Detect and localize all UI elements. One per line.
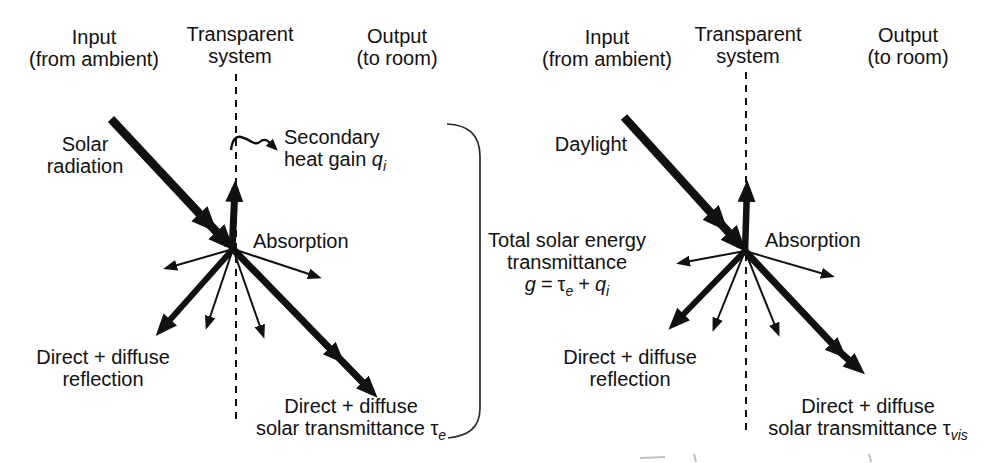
left-secondary-line1: Secondary: [284, 126, 386, 148]
right-header-input: Input (from ambient): [542, 26, 672, 70]
right-scatter-arrow-2: [714, 251, 745, 328]
left-secondary-heat-gain-squiggle-arrow: [231, 137, 275, 150]
left-absorption-label: Absorption: [253, 230, 349, 252]
right-transmittance-label: Direct + diffuse solar transmittance τvi…: [768, 395, 968, 439]
left-header-system-line1: Transparent: [186, 23, 293, 45]
left-header-output-line2: (to room): [356, 47, 437, 69]
formula-equals: =: [541, 273, 553, 295]
total-note-line1: Total solar energy: [488, 229, 646, 251]
formula-tau-sub: e: [565, 283, 573, 299]
right-header-input-line1: Input: [542, 26, 672, 48]
left-header-system-line2: system: [186, 45, 293, 67]
right-header-output: Output (to room): [867, 24, 948, 68]
left-reflection-label: Direct + diffuse reflection: [36, 346, 170, 390]
left-source-label: Solar radiation: [47, 133, 124, 177]
left-reflection-line1: Direct + diffuse: [36, 346, 170, 368]
left-transmittance-line2-text: solar transmittance: [256, 417, 431, 439]
left-header-system: Transparent system: [186, 23, 293, 67]
left-reflection-line2: reflection: [36, 368, 170, 390]
right-transmittance-line1: Direct + diffuse: [768, 395, 968, 417]
right-header-input-line2: (from ambient): [542, 48, 672, 70]
left-reflection-arrow: [161, 249, 233, 330]
left-secondary-heat-gain-label: Secondary heat gain qi: [284, 126, 386, 170]
left-transmittance-line2: solar transmittance τe: [256, 417, 446, 439]
right-reflection-line1: Direct + diffuse: [563, 346, 697, 368]
formula-plus: +: [578, 273, 590, 295]
left-header-output: Output (to room): [356, 25, 437, 69]
left-transmittance-line1: Direct + diffuse: [256, 395, 446, 417]
right-absorption-label: Absorption: [765, 229, 861, 251]
left-header-input-line1: Input: [29, 26, 159, 48]
total-note-formula: g=τe+qi: [488, 273, 646, 295]
right-transmittance-line2-text: solar transmittance: [768, 417, 943, 439]
right-scatter-arrow-3: [745, 251, 778, 333]
left-transmittance-symbol-sub: e: [438, 427, 446, 443]
right-source-label: Daylight: [555, 133, 627, 155]
left-header-input-line2: (from ambient): [29, 48, 159, 70]
right-transmittance-line2: solar transmittance τvis: [768, 417, 968, 439]
total-transmittance-brace: [447, 124, 480, 438]
solar-daylight-transmittance-figure: Input (from ambient) Transparent system …: [0, 0, 991, 463]
right-transmittance-symbol-sub: vis: [951, 427, 968, 443]
left-secondary-symbol: q: [372, 148, 383, 170]
right-header-system: Transparent system: [694, 23, 801, 67]
formula-q-sub: i: [606, 283, 609, 299]
left-solar-radiation-arrow: [111, 119, 228, 244]
formula-q: q: [595, 273, 606, 295]
left-secondary-line2-text: heat gain: [284, 148, 372, 170]
left-header-output-line1: Output: [356, 25, 437, 47]
total-note-line2: transmittance: [488, 251, 646, 273]
left-absorption-up-arrow: [232, 188, 235, 252]
right-daylight-arrow: [624, 117, 740, 245]
right-header-output-line1: Output: [867, 24, 948, 46]
left-header-input: Input (from ambient): [29, 26, 159, 70]
left-source-line2: radiation: [47, 155, 124, 177]
left-transmittance-label: Direct + diffuse solar transmittance τe: [256, 395, 446, 439]
right-absorption-up-arrow: [745, 188, 747, 253]
left-transmittance-arrow: [233, 249, 372, 392]
right-reflection-line2: reflection: [563, 368, 697, 390]
left-source-line1: Solar: [47, 133, 124, 155]
total-transmittance-note: Total solar energy transmittance g=τe+qi: [488, 229, 646, 295]
right-reflection-label: Direct + diffuse reflection: [563, 346, 697, 390]
right-header-system-line2: system: [694, 45, 801, 67]
right-header-system-line1: Transparent: [694, 23, 801, 45]
right-header-output-line2: (to room): [867, 46, 948, 68]
right-transmittance-arrow: [745, 251, 859, 369]
left-secondary-line2: heat gain qi: [284, 148, 386, 170]
scan-artifact-marks: [640, 454, 871, 462]
left-secondary-symbol-sub: i: [383, 158, 386, 174]
formula-g: g: [525, 273, 536, 295]
